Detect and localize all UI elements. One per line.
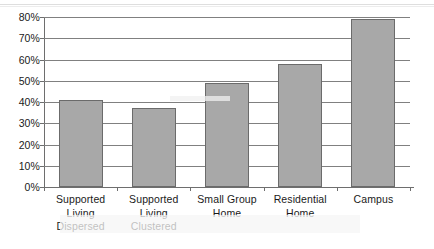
bar <box>132 108 176 187</box>
x-axis-category-label-line: Supported <box>44 193 117 207</box>
scan-artifact-line-secondary <box>0 6 434 7</box>
y-axis-tick-label: 0% <box>2 181 40 193</box>
x-axis-category-label-line: Residential <box>264 193 337 207</box>
bars-layer <box>44 17 410 187</box>
x-axis-category-label-line: Small Group <box>190 193 263 207</box>
bar-chart: 0%10%20%30%40%50%60%70%80% SupportedLivi… <box>0 0 434 249</box>
x-axis-line <box>40 187 414 188</box>
x-axis-category-label: Campus <box>337 193 410 207</box>
x-axis-tick-mark <box>264 187 265 191</box>
x-axis-category-label: SupportedLivingClustered <box>117 193 190 234</box>
x-axis-category-label: Small GroupHome <box>190 193 263 220</box>
y-axis-tick-label: 70% <box>2 32 40 44</box>
y-axis: 0%10%20%30%40%50%60%70%80% <box>0 0 40 249</box>
x-axis-category-label: ResidentialHome <box>264 193 337 220</box>
bar <box>278 64 322 187</box>
x-axis-category-label-line: Living <box>44 207 117 221</box>
y-axis-tick-label: 50% <box>2 75 40 87</box>
bar <box>351 19 395 187</box>
y-axis-tick-label: 40% <box>2 96 40 108</box>
x-axis-category-label-line: Supported <box>117 193 190 207</box>
x-axis-tick-mark <box>337 187 338 191</box>
y-axis-tick-label: 30% <box>2 117 40 129</box>
x-axis-tick-mark <box>117 187 118 191</box>
bar <box>205 83 249 187</box>
scan-artifact-line <box>0 4 434 5</box>
x-axis-category-label-line: Living <box>117 207 190 221</box>
x-axis-category-label-line: Dispersed <box>44 220 117 234</box>
x-axis-category-label-line: Clustered <box>117 220 190 234</box>
y-axis-tick-label: 80% <box>2 11 40 23</box>
x-axis-category-label-line: Home <box>264 207 337 221</box>
x-axis-category-label: SupportedLivingDispersed <box>44 193 117 234</box>
x-axis-labels: SupportedLivingDispersedSupportedLivingC… <box>44 193 410 245</box>
y-axis-tick-label: 20% <box>2 139 40 151</box>
x-axis-category-label-line: Campus <box>337 193 410 207</box>
bar <box>59 100 103 187</box>
y-axis-tick-label: 10% <box>2 160 40 172</box>
x-axis-tick-mark <box>410 187 411 191</box>
x-axis-tick-mark <box>44 187 45 191</box>
x-axis-category-label-line: Home <box>190 207 263 221</box>
x-axis-tick-mark <box>190 187 191 191</box>
y-axis-tick-label: 60% <box>2 54 40 66</box>
